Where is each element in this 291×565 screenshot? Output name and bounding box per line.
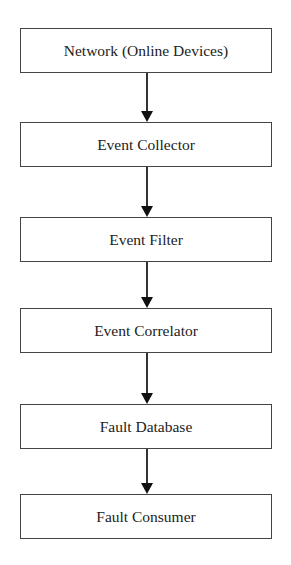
edge-correlator-database: [146, 353, 148, 393]
node-fault-database: Fault Database: [20, 404, 272, 449]
arrowhead-icon: [141, 393, 153, 404]
edge-database-consumer: [146, 449, 148, 483]
edge-filter-correlator: [146, 262, 148, 297]
node-fault-consumer: Fault Consumer: [20, 494, 272, 539]
edge-collector-filter: [146, 167, 148, 206]
node-network: Network (Online Devices): [20, 28, 272, 73]
arrowhead-icon: [141, 111, 153, 122]
node-event-collector: Event Collector: [20, 122, 272, 167]
node-event-correlator: Event Correlator: [20, 308, 272, 353]
arrowhead-icon: [141, 206, 153, 217]
arrowhead-icon: [141, 483, 153, 494]
arrowhead-icon: [141, 297, 153, 308]
node-event-filter: Event Filter: [20, 217, 272, 262]
edge-network-collector: [146, 73, 148, 111]
